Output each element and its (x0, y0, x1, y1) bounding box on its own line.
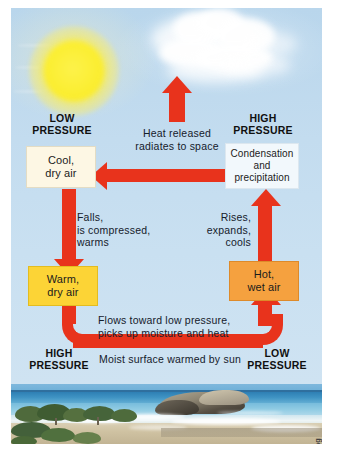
photo-tree-trunk (55, 418, 57, 425)
label-line1: LOW (264, 347, 289, 359)
annotation-line3: cools (179, 236, 251, 249)
annotation-line2: picks up moisture and heat (98, 327, 238, 340)
label-line1: HIGH (249, 112, 276, 124)
photo-shrub (41, 428, 75, 442)
photo-shrub (83, 406, 115, 421)
annotation-line1: Heat released (121, 127, 233, 140)
box-cool-dry-air-line1: Cool, (48, 154, 74, 167)
box-hot-wet-air-line2: wet air (247, 281, 280, 294)
convection-diagram-figure: Cool, dry air Condensation and precipita… (11, 8, 322, 444)
box-condensation-precipitation[interactable]: Condensation and precipitation (225, 143, 299, 189)
annotation-line2: expands, (179, 224, 251, 237)
beach-photograph (11, 384, 322, 444)
photo-rock-outcrop (155, 400, 199, 415)
photo-foam (171, 418, 281, 425)
box-condensation-line3: precipitation (234, 172, 289, 184)
photo-foam (217, 411, 283, 415)
label-line2: PRESSURE (32, 124, 91, 136)
box-cool-dry-air[interactable]: Cool, dry air (26, 146, 96, 188)
label-line1: LOW (49, 112, 74, 124)
label-line2: PRESSURE (29, 359, 88, 371)
copyright-credit: © Cengage Learning (312, 438, 321, 444)
label-high-pressure-bottom-left: HIGH PRESSURE (21, 347, 97, 371)
box-warm-dry-air-line1: Warm, (47, 273, 79, 286)
label-line2: PRESSURE (247, 359, 306, 371)
cloud-icon (221, 54, 291, 76)
annotation-moist-surface: Moist surface warmed by sun (95, 353, 245, 366)
annotation-line1: Flows toward low pressure, (98, 314, 238, 327)
annotation-flows-toward-low-pressure: Flows toward low pressure, picks up mois… (98, 314, 238, 339)
box-warm-dry-air[interactable]: Warm, dry air (28, 266, 98, 306)
annotation-line1: Rises, (179, 211, 251, 224)
box-warm-dry-air-line2: dry air (47, 286, 78, 299)
annotation-rises-expands-cools: Rises, expands, cools (179, 211, 251, 249)
cloud-icon (245, 32, 297, 56)
box-hot-wet-air[interactable]: Hot, wet air (229, 261, 299, 301)
box-condensation-line2: and (254, 160, 271, 172)
annotation-line2: radiates to space (121, 140, 233, 153)
photo-shrub (111, 409, 137, 422)
annotation-line3: warms (77, 236, 169, 249)
label-low-pressure-top-left: LOW PRESSURE (25, 112, 99, 136)
label-line2: PRESSURE (233, 124, 292, 136)
photo-shrub (73, 432, 101, 444)
annotation-line1: Falls, (77, 211, 169, 224)
label-high-pressure-top-right: HIGH PRESSURE (225, 112, 301, 136)
photo-wet-sand (161, 428, 322, 437)
box-hot-wet-air-line1: Hot, (254, 268, 275, 281)
label-low-pressure-bottom-right: LOW PRESSURE (239, 347, 315, 371)
photo-tree-trunk (97, 417, 99, 425)
annotation-heat-released: Heat released radiates to space (121, 127, 233, 152)
box-condensation-line1: Condensation (231, 148, 294, 160)
box-cool-dry-air-line2: dry air (45, 167, 76, 180)
sun-icon (44, 41, 104, 101)
photo-rock-outcrop (199, 390, 249, 405)
annotation-falls-compressed-warms: Falls, is compressed, warms (77, 211, 169, 249)
annotation-line2: is compressed, (77, 224, 169, 237)
label-line1: HIGH (45, 347, 72, 359)
photo-shrub (11, 436, 37, 444)
